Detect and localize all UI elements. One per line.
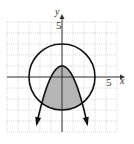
y-axis-label: y: [54, 6, 60, 17]
graph: 5 5 x y: [0, 0, 134, 144]
y-tick-label-5: 5: [56, 19, 62, 31]
x-axis-label: x: [119, 75, 125, 86]
x-tick-label-5: 5: [106, 76, 112, 88]
